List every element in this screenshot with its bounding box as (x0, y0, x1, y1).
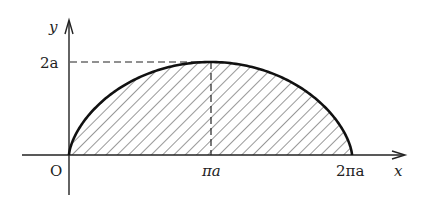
x-tick-label-pia: πa (201, 162, 221, 180)
cycloid-diagram: y 2a O πa 2πa x (0, 0, 434, 199)
origin-label: O (50, 162, 62, 180)
y-axis-label: y (48, 18, 58, 36)
y-tick-label-2a: 2a (40, 54, 59, 72)
x-tick-label-2pia: 2πa (336, 162, 364, 180)
x-axis-label: x (394, 162, 403, 180)
